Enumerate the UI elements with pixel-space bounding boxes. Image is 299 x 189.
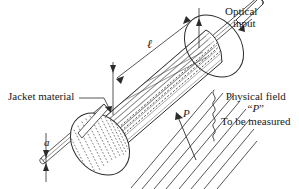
physical-field-symbol-line: “P” [221, 102, 290, 114]
field-arrow-symbol-label: P [183, 107, 190, 119]
optical-input-line2: input [225, 17, 257, 29]
length-symbol-label: ℓ [147, 38, 152, 51]
optical-input-label: Optical input [225, 5, 257, 30]
jacket-material-leader [79, 98, 112, 113]
quote-close: ” [259, 102, 264, 114]
optical-input-line1: Optical [225, 5, 257, 17]
jacket-material-label: Jacket material [8, 90, 74, 102]
physical-field-line3: To be measured [221, 115, 290, 127]
physical-field-label: Physical field “P” To be measured [221, 90, 290, 127]
fiber-optic-sensor-diagram: Optical input Jacket material Physical f… [0, 0, 299, 189]
physical-field-line1: Physical field [221, 90, 290, 102]
radius-symbol-label: a [44, 136, 50, 148]
